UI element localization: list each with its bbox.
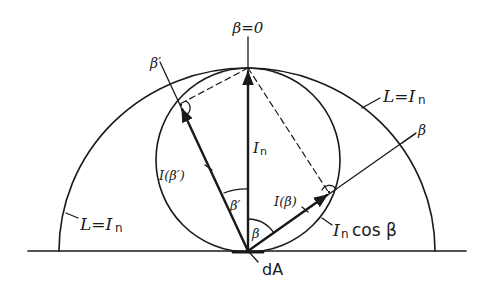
svg-text:n: n	[418, 93, 426, 107]
normal-intensity-label: I n	[252, 139, 267, 158]
radiance-label-left: L=I n	[79, 214, 123, 235]
diagram-canvas: β=0 β′ β L=I n L=I n I n I(β′) I(β) β′ β…	[0, 0, 482, 296]
svg-text:L=I: L=I	[79, 214, 113, 234]
leader-beta-ray	[402, 134, 415, 143]
projection-dashed-left	[180, 68, 248, 104]
radiance-label-right: L=I n	[382, 86, 426, 107]
svg-text:cos β: cos β	[352, 220, 397, 240]
svg-text:n: n	[115, 221, 123, 235]
angle-arc-beta-prime	[224, 189, 248, 193]
intensity-beta-prime-vector	[182, 109, 248, 251]
leader-right-radiance	[362, 98, 380, 108]
svg-text:L=I: L=I	[382, 86, 416, 106]
right-angle-dot-left	[180, 104, 182, 106]
leader-cos-law	[322, 218, 332, 225]
svg-text:I: I	[252, 139, 260, 157]
angle-beta-label: β	[251, 226, 260, 241]
svg-text:n: n	[260, 145, 267, 158]
right-angle-mark-left	[186, 101, 190, 115]
area-element-label: dA	[262, 260, 283, 279]
angle-beta-prime-label: β′	[229, 198, 241, 213]
intensity-beta-prime-label: I(β′)	[158, 168, 185, 183]
leader-dA	[250, 253, 258, 262]
svg-text:n: n	[341, 227, 349, 241]
intensity-beta-label: I(β)	[273, 194, 297, 209]
beta-ray-label: β	[417, 122, 426, 138]
cosine-law-label: I n cos β	[332, 220, 397, 241]
beta-prime-ray-label: β′	[149, 55, 162, 71]
normal-axis-label: β=0	[232, 19, 264, 37]
svg-text:I: I	[332, 220, 340, 240]
leader-left-radiance	[66, 213, 78, 218]
right-angle-dot-right	[328, 191, 330, 193]
projection-dashed-right	[248, 68, 329, 193]
